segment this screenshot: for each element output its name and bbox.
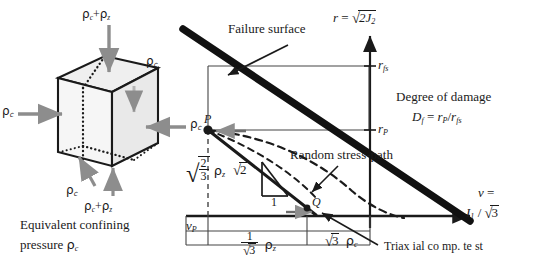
- tick-label-vp: vP: [186, 219, 197, 234]
- cube-right-label: ρc: [190, 118, 202, 131]
- y-axis-label-radical: √2J2: [352, 10, 376, 26]
- dim-bottom-left: 1√3 ρz: [241, 230, 276, 258]
- dim-left-vertical: √23 ρz: [186, 156, 225, 187]
- damage-title: Degree of damage: [396, 90, 491, 104]
- x-axis-label-line2: I1 / √3: [466, 205, 499, 221]
- tick-label-rfs: rfs: [378, 58, 388, 73]
- dim-bottom-right: √3 ρc: [325, 233, 358, 249]
- cube-caption-line2: pressure ρc: [20, 238, 78, 253]
- cube-top-load-label: ρc+ρz: [82, 8, 110, 21]
- y-axis-label: r = √2J2: [333, 10, 376, 26]
- point-q-label: Q: [312, 196, 321, 209]
- cube-specimen: [18, 25, 186, 196]
- point-p-marker: [203, 125, 212, 134]
- annotation-failure-surface: Failure surface: [228, 22, 306, 36]
- point-p-label: P: [204, 113, 211, 126]
- figure-root: ρc+ρz ρc ρc ρc ρc ρc+ρz Equivalent confi…: [0, 0, 541, 273]
- slope-triangle: [262, 162, 288, 196]
- annotation-random-stress-path: Random stress-path: [290, 148, 393, 162]
- slope-run-label: 1: [271, 196, 277, 209]
- cube-caption-line1: Equivalent confining: [20, 218, 129, 232]
- cube-bottom-load-label: ρc+ρz: [84, 200, 112, 213]
- x-axis-label-line1: v =: [478, 186, 494, 200]
- cube-top-right-label: ρc: [146, 55, 158, 68]
- cube-front-face: [58, 78, 112, 166]
- cube-left-label: ρc: [2, 105, 14, 118]
- leader-failure-surface: [228, 45, 288, 75]
- cube-bottom-inner-label: ρc: [66, 184, 78, 197]
- y-axis-label-prefix: r: [333, 10, 338, 25]
- damage-formula: Df = rP/rfs: [412, 110, 462, 125]
- point-q-marker: [304, 205, 311, 212]
- slope-rise-label: √2: [233, 162, 247, 178]
- tick-label-rp: rP: [378, 122, 388, 137]
- annotation-triaxial: Triax ial co mp. te st: [384, 240, 483, 253]
- y-axis-label-eq: =: [341, 10, 348, 25]
